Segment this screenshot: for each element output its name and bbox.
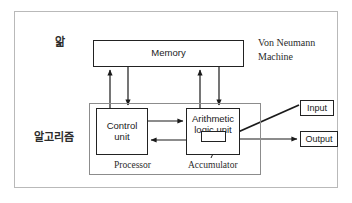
- accumulator-register-block[interactable]: [201, 131, 226, 142]
- input-block[interactable]: Input: [300, 100, 334, 116]
- diagram-canvas: Memory Control unit Arithmetic logic uni…: [0, 0, 352, 203]
- memory-label: Memory: [151, 48, 185, 59]
- processor-caption: Processor: [114, 160, 151, 170]
- knowledge-label: 앎: [55, 37, 65, 49]
- accumulator-caption: Accumulator: [188, 160, 238, 170]
- control-unit-label: Control unit: [107, 121, 138, 142]
- input-label: Input: [307, 103, 327, 113]
- von-neumann-machine-caption: Von Neumann Machine: [258, 36, 315, 63]
- algorithm-label: 알고리즘: [34, 128, 74, 144]
- control-unit-block[interactable]: Control unit: [96, 108, 148, 155]
- memory-block[interactable]: Memory: [93, 40, 244, 67]
- output-label: Output: [305, 134, 332, 144]
- output-block[interactable]: Output: [300, 131, 338, 147]
